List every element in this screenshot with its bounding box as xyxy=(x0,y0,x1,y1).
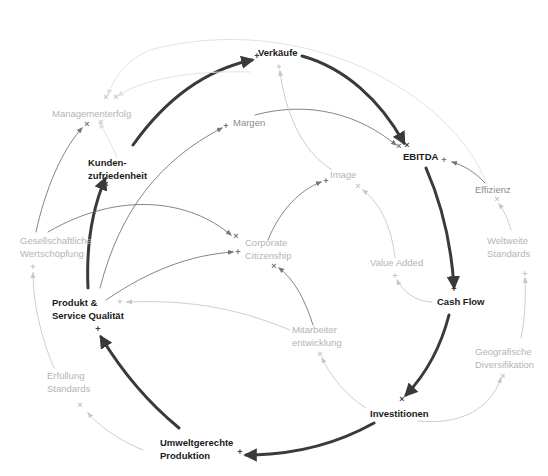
edge-investitionen-to-geografische xyxy=(418,378,501,422)
edge-gesellschaftliche-to-corporate xyxy=(48,204,231,235)
node-gesellschaftliche: GesellschaftlicheWertschöpfung xyxy=(20,235,92,259)
node-label-line: Mitarbeiter xyxy=(292,324,337,335)
plus-polarity-icon: + xyxy=(392,271,397,281)
node-label-line: EBITDA xyxy=(403,151,439,162)
times-polarity-icon: × xyxy=(399,394,404,404)
node-label-line: zufriedenheit xyxy=(88,170,148,181)
node-label-line: Umweltgerechte xyxy=(160,437,233,448)
times-polarity-icon: × xyxy=(103,92,108,102)
node-label-line: Standards xyxy=(487,248,531,259)
plus-polarity-icon: + xyxy=(237,447,242,457)
plus-polarity-icon: + xyxy=(451,284,456,294)
edge-produkt-to-corporate xyxy=(106,252,233,300)
edge-kundenzufriedenheit-to-managementerfolg xyxy=(100,123,117,158)
node-label-line: Margen xyxy=(233,117,265,128)
edge-verkaeufe-to-ebitda xyxy=(302,56,404,143)
times-polarity-icon: × xyxy=(355,181,360,191)
node-corporate: CorporateCitizenship xyxy=(245,237,291,261)
node-label-line: Produktion xyxy=(160,450,210,461)
node-label-line: Wertschöpfung xyxy=(20,248,84,259)
edge-geografische-to-weltweite xyxy=(521,278,525,338)
node-label-line: Produkt & xyxy=(52,297,98,308)
times-polarity-icon: × xyxy=(317,349,322,359)
node-geografische: GeografischeDiversifikation xyxy=(475,346,534,370)
times-polarity-icon: × xyxy=(84,119,89,129)
node-mitarbeiter: Mitarbeiterentwicklung xyxy=(292,324,342,348)
node-ebitda: EBITDA xyxy=(403,151,439,162)
plus-polarity-icon: + xyxy=(441,155,446,165)
times-polarity-icon: × xyxy=(113,92,118,102)
node-label-line: Standards xyxy=(47,383,91,394)
causal-loop-diagram: +×+×++×+×+×+×++×+××+×+××××+× VerkäufeMan… xyxy=(0,0,548,476)
node-label-line: Cash Flow xyxy=(437,296,485,307)
edge-mitarbeiter-to-corporate xyxy=(279,268,313,325)
node-label-line: Verkäufe xyxy=(258,47,298,58)
plus-polarity-icon: + xyxy=(30,262,35,272)
edge-erfuellung-to-gesellschaftliche xyxy=(33,273,54,368)
node-label-line: Weltweite xyxy=(487,235,528,246)
edge-kundenzufriedenheit-to-verkaeufe xyxy=(133,60,252,145)
node-produkt: Produkt &Service Qualität xyxy=(52,297,125,321)
node-label-line: Erfüllung xyxy=(47,370,85,381)
node-effizienz: Effizienz xyxy=(475,184,511,195)
edge-valueadded-to-image xyxy=(363,190,395,258)
node-image: Image xyxy=(330,169,356,180)
plus-polarity-icon: + xyxy=(522,269,527,279)
edge-weltweite-to-effizienz xyxy=(499,204,511,230)
edge-cashflow-to-valueadded xyxy=(397,280,432,302)
edge-produkt-to-kundenzufriedenheit xyxy=(88,179,105,288)
plus-polarity-icon: + xyxy=(323,176,328,186)
edge-ebitda-to-cashflow xyxy=(426,168,454,287)
times-polarity-icon: × xyxy=(233,231,238,241)
node-kundenzufriedenheit: Kunden-zufriedenheit xyxy=(88,157,148,181)
times-polarity-icon: × xyxy=(77,400,82,410)
edge-umweltgerechte-to-erfuellung xyxy=(88,413,143,450)
nodes-layer: VerkäufeManagementerfolgMargenKunden-zuf… xyxy=(20,47,534,461)
node-label-line: Image xyxy=(330,169,356,180)
node-investitionen: Investitionen xyxy=(370,408,429,419)
edge-mitarbeiter-to-produkt xyxy=(127,302,290,330)
times-polarity-icon: × xyxy=(500,371,505,381)
node-label-line: Gesellschaftliche xyxy=(20,235,92,246)
edge-image-to-verkaeufe xyxy=(280,71,332,170)
node-valueadded: Value Added xyxy=(370,257,423,268)
node-label-line: Effizienz xyxy=(475,184,511,195)
node-umweltgerechte: UmweltgerechteProduktion xyxy=(160,437,233,461)
edge-investitionen-to-umweltgerechte xyxy=(246,423,374,455)
times-polarity-icon: × xyxy=(396,141,401,151)
node-label-line: Citizenship xyxy=(245,250,291,261)
edge-effizienz-to-managementerfolg xyxy=(108,39,487,184)
times-polarity-icon: × xyxy=(271,261,276,271)
node-label-line: Kunden- xyxy=(88,157,127,168)
plus-polarity-icon: + xyxy=(235,247,240,257)
edge-gesellschaftliche-to-managementerfolg xyxy=(36,128,82,232)
node-margen: Margen xyxy=(233,117,265,128)
node-label-line: Corporate xyxy=(245,237,287,248)
edge-effizienz-to-ebitda xyxy=(452,162,485,183)
node-label-line: Service Qualität xyxy=(52,310,125,321)
plus-polarity-icon: + xyxy=(276,62,281,72)
node-weltweite: WeltweiteStandards xyxy=(487,235,531,259)
plus-polarity-icon: + xyxy=(117,297,122,307)
node-label-line: Investitionen xyxy=(370,408,429,419)
node-verkaeufe: Verkäufe xyxy=(258,47,298,58)
times-polarity-icon: × xyxy=(494,194,499,204)
edge-margen-to-ebitda xyxy=(255,109,396,145)
plus-polarity-icon: + xyxy=(223,121,228,131)
times-polarity-icon: × xyxy=(404,140,409,150)
edge-corporate-to-image xyxy=(268,182,321,240)
node-managementerfolg: Managementerfolg xyxy=(52,108,131,119)
node-label-line: Value Added xyxy=(370,257,423,268)
node-cashflow: Cash Flow xyxy=(437,296,485,307)
node-label-line: Geografische xyxy=(475,346,532,357)
node-label-line: entwicklung xyxy=(292,337,342,348)
plus-polarity-icon: + xyxy=(95,324,100,334)
edge-umweltgerechte-to-produkt xyxy=(101,337,179,428)
edge-investitionen-to-mitarbeiter xyxy=(322,358,366,408)
edge-produkt-to-margen xyxy=(100,128,222,288)
node-erfuellung: ErfüllungStandards xyxy=(47,370,91,394)
edge-cashflow-to-investitionen xyxy=(406,315,449,395)
node-label-line: Diversifikation xyxy=(475,359,534,370)
node-label-line: Managementerfolg xyxy=(52,108,131,119)
